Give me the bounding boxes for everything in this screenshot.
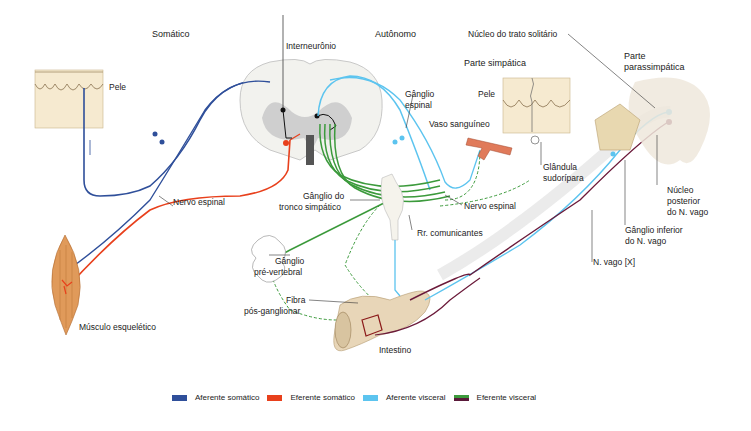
swatch-visceral-efferent xyxy=(454,395,469,401)
label-spinal-nerve-left: Nervo espinal xyxy=(173,197,225,207)
legend: Aferente somático Eferente somático Afer… xyxy=(172,393,544,402)
header-parasympathetic-2: parassimpática xyxy=(624,62,685,72)
label-sweat-gland-1: Glândula xyxy=(543,162,577,172)
label-vagus-posterior-nucleus-2: posterior xyxy=(667,196,700,206)
header-sympathetic: Parte simpática xyxy=(464,58,526,68)
label-prevertebral-ganglion-2: pré-vertebral xyxy=(254,267,302,277)
label-sympathetic-trunk-ganglion-2: tronco simpático xyxy=(279,202,341,212)
header-parasympathetic-1: Parte xyxy=(624,51,646,61)
swatch-somatic-afferent xyxy=(172,395,187,401)
skeletal-muscle xyxy=(52,235,81,335)
label-solitary-tract-nucleus: Núcleo do trato solitário xyxy=(468,29,557,39)
label-postganglionic-fiber-1: Fibra xyxy=(286,295,305,305)
label-vagus-inferior-ganglion-2: do N. vago xyxy=(625,236,666,246)
label-sweat-gland-2: sudorípara xyxy=(543,173,584,183)
intestine xyxy=(334,291,430,351)
spinal-cord-section xyxy=(240,59,382,165)
label-vagus-posterior-nucleus-3: do N. vago xyxy=(667,207,708,217)
label-spinal-nerve-right: Nervo espinal xyxy=(464,201,516,211)
label-vagus-inferior-ganglion-1: Gânglio inferior xyxy=(625,225,683,235)
label-prevertebral-ganglion-1: Gânglio xyxy=(275,256,304,266)
legend-item-visceral-efferent: Eferente visceral xyxy=(454,393,537,402)
header-somatic: Somático xyxy=(152,29,190,39)
label-vagus-nerve: N. vago [X] xyxy=(593,257,635,267)
label-rami-communicantes: Rr. comunicantes xyxy=(417,228,483,238)
label-skin-right: Pele xyxy=(478,89,495,99)
skin-left xyxy=(35,70,103,128)
label-interneuron: Interneurônio xyxy=(286,41,336,51)
legend-item-somatic-afferent: Aferente somático xyxy=(172,393,259,402)
label-sympathetic-trunk-ganglion-1: Gânglio do xyxy=(303,191,344,201)
label-postganglionic-fiber-2: pós-ganglionar xyxy=(244,306,300,316)
legend-item-visceral-afferent: Aferente visceral xyxy=(363,393,446,402)
swatch-somatic-efferent xyxy=(267,395,282,401)
header-autonomic: Autônomo xyxy=(375,29,416,39)
legend-item-somatic-efferent: Eferente somático xyxy=(267,393,354,402)
label-skin-left: Pele xyxy=(109,82,126,92)
skin-right xyxy=(503,78,570,144)
label-intestine: Intestino xyxy=(379,345,411,355)
swatch-visceral-afferent xyxy=(363,395,378,401)
label-skeletal-muscle: Músculo esquelético xyxy=(79,322,156,332)
label-blood-vessel: Vaso sanguíneo xyxy=(429,119,490,129)
label-vagus-posterior-nucleus-1: Núcleo xyxy=(667,185,693,195)
blood-vessel xyxy=(466,138,512,160)
label-spinal-ganglion-1: Gânglio xyxy=(405,89,434,99)
label-spinal-ganglion-2: espinal xyxy=(405,100,432,110)
